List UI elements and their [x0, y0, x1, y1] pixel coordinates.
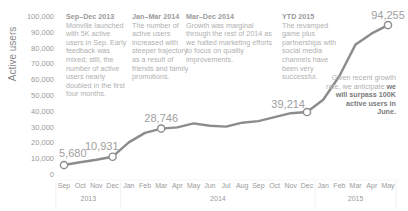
annotation-text: Monville launched with 5K active users i… — [66, 22, 128, 99]
data-point — [158, 125, 165, 132]
year-label: 2013 — [81, 195, 97, 202]
y-tick-label: 70,000 — [31, 59, 54, 68]
y-axis-title: Active users — [7, 27, 18, 81]
data-point — [60, 161, 67, 168]
annotation-jan-mar-2014: Jan–Mar 2014 The number of active users … — [132, 13, 192, 82]
y-tick-label: 40,000 — [31, 107, 54, 116]
y-axis: 010,00020,00030,00040,00050,00060,00070,… — [27, 12, 54, 179]
data-label: 39,214 — [271, 98, 305, 110]
x-tick-label: Apr — [172, 182, 184, 190]
data-label: 5,680 — [59, 147, 87, 159]
x-tick-label: Mar — [155, 182, 168, 189]
x-tick-label: Jun — [204, 182, 215, 189]
data-label: 28,746 — [144, 112, 178, 124]
y-tick-label: 60,000 — [31, 75, 54, 84]
x-tick-label: Jan — [123, 182, 134, 189]
x-tick-label: Sep — [58, 182, 71, 190]
x-tick-label: Oct — [269, 182, 280, 189]
x-tick-label: Dec — [106, 182, 119, 189]
annotation-text: Growth was marginal through the rest of … — [186, 22, 274, 65]
x-tick-label: Mar — [350, 182, 363, 189]
annotation-ytd-2015: YTD 2015 The revamped game plus partners… — [282, 13, 342, 82]
x-tick-label: May — [381, 182, 395, 190]
x-tick-label: Sep — [252, 182, 265, 190]
y-tick-label: 0 — [50, 170, 54, 179]
annotation-text: The number of active users increased wit… — [132, 22, 192, 82]
x-tick-label: May — [187, 182, 201, 190]
year-label: 2015 — [348, 195, 364, 202]
data-label: 10,931 — [85, 140, 119, 152]
annotation-forecast: Given recent growth rate, we anticipate … — [326, 74, 396, 117]
x-tick-label: Nov — [90, 182, 103, 189]
x-tick-label: Nov — [285, 182, 298, 189]
x-tick-label: Apr — [366, 182, 378, 190]
x-tick-label: Feb — [139, 182, 151, 189]
x-tick-label: Jan — [318, 182, 329, 189]
year-label: 2014 — [210, 195, 226, 202]
x-tick-label: Dec — [301, 182, 314, 189]
data-point — [384, 21, 391, 28]
y-tick-label: 30,000 — [31, 123, 54, 132]
y-tick-label: 80,000 — [31, 44, 54, 53]
x-tick-label: Oct — [75, 182, 86, 189]
y-tick-label: 20,000 — [31, 138, 54, 147]
y-tick-label: 50,000 — [31, 91, 54, 100]
x-axis: SepOctNovDecJanFebMarAprMayJunJulAugSepO… — [56, 180, 398, 190]
x-tick-label: Feb — [333, 182, 345, 189]
x-tick-label: Aug — [236, 182, 249, 190]
x-tick-label: Jul — [222, 182, 231, 189]
y-tick-label: 100,000 — [27, 12, 54, 21]
y-tick-label: 90,000 — [31, 28, 54, 37]
annotation-mar-dec-2014: Mar–Dec 2014 Growth was marginal through… — [186, 13, 274, 65]
y-tick-label: 10,000 — [31, 154, 54, 163]
data-point — [109, 153, 116, 160]
data-label: 94,255 — [371, 9, 405, 21]
annotation-sep-dec-2013: Sep–Dec 2013 Monville launched with 5K a… — [66, 13, 128, 99]
